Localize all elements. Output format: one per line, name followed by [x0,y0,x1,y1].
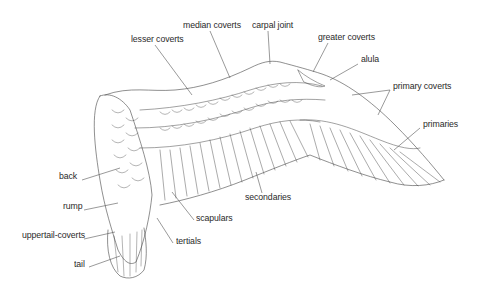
label-median-coverts: median coverts [183,19,241,30]
leader-tertials [157,218,173,243]
label-back: back [59,170,77,181]
leader-carpal-joint [268,31,270,64]
label-scapulars: scapulars [196,212,233,223]
leader-alula [330,64,358,80]
leader-secondaries [256,172,262,193]
leader-lines [82,31,420,267]
leader-greater-coverts [313,43,328,72]
label-lesser-coverts: lesser coverts [131,33,184,44]
leader-lesser-coverts [155,45,192,95]
leader-primaries [394,128,420,150]
label-alula: alula [361,53,379,64]
label-uppertail-coverts: uppertail-coverts [22,229,85,240]
leader-rump [84,203,118,210]
alula-shape [298,70,325,87]
label-carpal-joint: carpal joint [252,19,293,30]
label-rump: rump [63,200,83,211]
leader-back [82,168,120,180]
label-primaries: primaries [423,118,458,129]
label-greater-coverts: greater coverts [318,31,375,42]
leader-uppertail-coverts [84,232,115,239]
leader-primary-coverts-2 [378,90,390,115]
body-outline [94,95,152,264]
leader-median-coverts [210,31,230,78]
wing-illustration [0,0,477,291]
label-tertials: tertials [176,235,201,246]
wing-anatomy-diagram: median coverts carpal joint lesser cover… [0,0,477,291]
label-tail: tail [74,258,85,269]
wing-trailing-edge [160,155,444,205]
leader-scapulars [172,192,194,220]
leader-tail [89,256,120,267]
label-primary-coverts: primary coverts [393,80,451,91]
leader-primary-coverts-1 [352,90,390,95]
label-secondaries: secondaries [245,191,291,202]
